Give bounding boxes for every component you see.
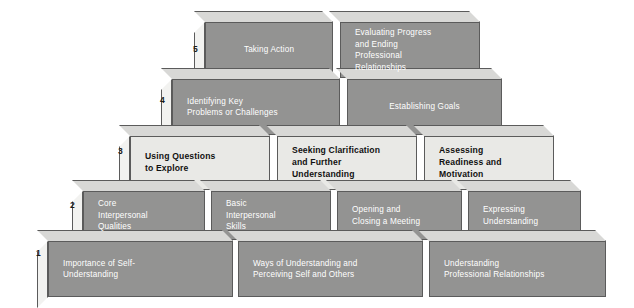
level-number-1: 1 bbox=[36, 248, 41, 258]
block-label: Importance of Self- Understanding bbox=[49, 258, 232, 281]
block-label: Identifying Key Problems or Challenges bbox=[173, 96, 339, 119]
block-label: Establishing Goals bbox=[348, 101, 501, 113]
block-label: Evaluating Progress and Ending Professio… bbox=[341, 27, 479, 73]
pyramid-block-l1-1: Importance of Self- Understanding bbox=[48, 241, 233, 297]
block-label: Taking Action bbox=[206, 44, 332, 56]
pyramid-block-l1-2: Ways of Understanding and Perceiving Sel… bbox=[238, 241, 423, 297]
block-label: Using Questions to Explore bbox=[131, 151, 269, 175]
block-label: Understanding Professional Relationships bbox=[430, 258, 605, 281]
level-number-3: 3 bbox=[118, 146, 123, 156]
block-label: Seeking Clarification and Further Unders… bbox=[278, 145, 416, 180]
block-label: Ways of Understanding and Perceiving Sel… bbox=[239, 258, 422, 281]
block-label: Assessing Readiness and Motivation bbox=[425, 145, 553, 180]
pyramid-block-l2-1: Core Interpersonal Qualities bbox=[83, 191, 205, 240]
pyramid-block-l1-3: Understanding Professional Relationships bbox=[429, 241, 606, 297]
pyramid-block-l2-2: Basic Interpersonal Skills bbox=[211, 191, 331, 240]
block-front-face: Evaluating Progress and Ending Professio… bbox=[340, 22, 480, 78]
block-front-face: Ways of Understanding and Perceiving Sel… bbox=[238, 241, 423, 297]
pyramid-block-l5-2: Evaluating Progress and Ending Professio… bbox=[340, 22, 480, 78]
level-number-2: 2 bbox=[70, 200, 75, 210]
block-label: Basic Interpersonal Skills bbox=[212, 198, 330, 233]
block-label: Opening and Closing a Meeting bbox=[338, 204, 461, 227]
block-label: Expressing Understanding bbox=[469, 204, 580, 227]
block-label: Core Interpersonal Qualities bbox=[84, 198, 204, 233]
block-front-face: Importance of Self- Understanding bbox=[48, 241, 233, 297]
level-number-5: 5 bbox=[193, 44, 198, 54]
block-front-face: Understanding Professional Relationships bbox=[429, 241, 606, 297]
block-front-face: Basic Interpersonal Skills bbox=[211, 191, 331, 240]
block-front-face: Core Interpersonal Qualities bbox=[83, 191, 205, 240]
level-number-4: 4 bbox=[160, 95, 165, 105]
